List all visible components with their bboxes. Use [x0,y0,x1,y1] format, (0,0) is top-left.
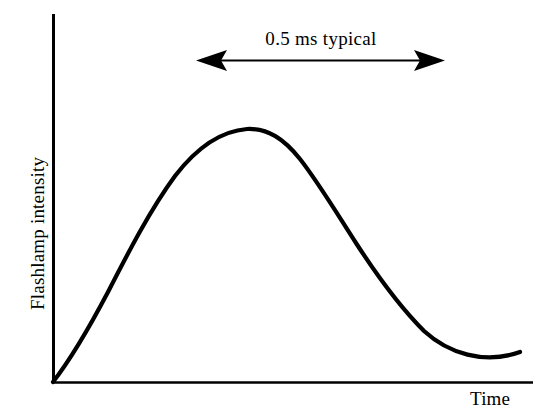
duration-annotation-label: 0.5 ms typical [196,28,446,50]
flashlamp-intensity-figure: 0.5 ms typical Flashlamp intensity Time [0,0,556,420]
y-axis-label: Flashlamp intensity [28,90,47,310]
duration-arrow [196,50,445,71]
flashlamp-pulse-curve [53,129,520,382]
x-axis-label: Time [470,389,510,408]
chart-canvas [0,0,556,420]
